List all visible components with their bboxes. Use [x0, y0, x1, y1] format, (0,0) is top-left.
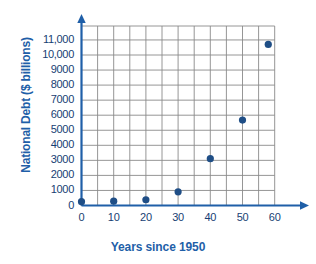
scatter-plot-canvas [0, 0, 316, 264]
data-point [142, 196, 149, 203]
data-point [239, 117, 246, 124]
data-point [207, 155, 214, 162]
data-point [265, 41, 272, 48]
x-axis-arrowhead [300, 201, 309, 209]
y-axis-arrowhead [77, 14, 85, 23]
chart-figure: National Debt ($ billions) Years since 1… [0, 0, 316, 264]
data-point [175, 188, 182, 195]
gridlines [82, 26, 275, 206]
data-point [110, 198, 117, 205]
data-point [78, 198, 85, 205]
axis-lines [77, 14, 309, 210]
